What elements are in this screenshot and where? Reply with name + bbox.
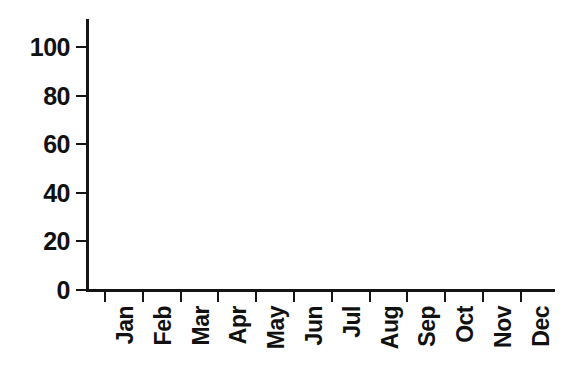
y-axis-tick [76, 192, 87, 194]
y-axis-tick [76, 289, 87, 291]
y-axis-tick-label: 0 [0, 278, 70, 303]
x-axis-tick [444, 291, 446, 302]
x-axis-tick-label: Apr [227, 306, 250, 344]
x-axis-tick-label: Jul [341, 306, 364, 338]
x-axis-tick [104, 291, 106, 302]
x-axis-tick [482, 291, 484, 302]
x-axis-tick [406, 291, 408, 302]
x-axis-tick [142, 291, 144, 302]
y-axis-tick [76, 46, 87, 48]
x-axis-tick [255, 291, 257, 302]
chart-figure: 020406080100 JanFebMarAprMayJunJulAugSep… [0, 0, 575, 382]
y-axis-tick-label: 40 [0, 180, 70, 205]
x-axis-tick-label: Mar [190, 306, 213, 345]
y-axis-tick [76, 143, 87, 145]
y-axis-tick [76, 95, 87, 97]
x-axis-tick [520, 291, 522, 302]
x-axis-tick-label: Feb [152, 306, 175, 345]
x-axis-tick-label: Jun [303, 306, 326, 345]
x-axis-tick [331, 291, 333, 302]
x-axis-tick [180, 291, 182, 302]
y-axis-tick-label: 80 [0, 83, 70, 108]
x-axis-tick-label: Oct [454, 306, 477, 343]
x-axis-tick [369, 291, 371, 302]
y-axis-tick-label: 100 [0, 35, 70, 60]
plot-area [89, 19, 555, 290]
x-axis-tick-label: Nov [492, 306, 515, 348]
y-axis-tick-label: 60 [0, 132, 70, 157]
x-axis-tick-label: Aug [379, 306, 402, 349]
y-axis-tick-label: 20 [0, 229, 70, 254]
x-axis-tick [293, 291, 295, 302]
x-axis-tick [217, 291, 219, 302]
x-axis-tick-label: Dec [530, 306, 553, 347]
x-axis-tick-label: Sep [416, 306, 439, 347]
x-axis-tick-label: Jan [114, 306, 137, 344]
y-axis-tick [76, 240, 87, 242]
x-axis-tick-label: May [265, 306, 288, 349]
